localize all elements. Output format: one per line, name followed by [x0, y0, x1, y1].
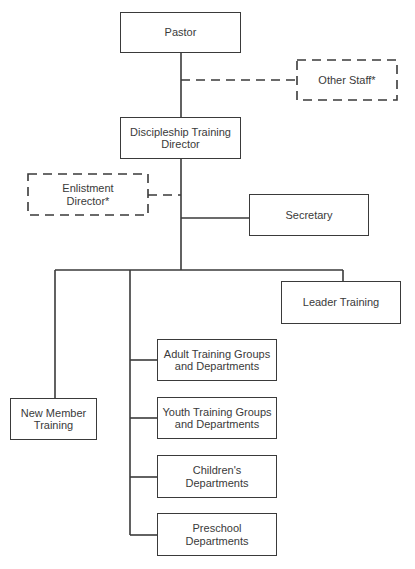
preschool-label-line1: Preschool — [193, 522, 242, 535]
pastor-box: Pastor — [120, 12, 241, 53]
pastor-label: Pastor — [165, 26, 197, 39]
dtd-label-line1: Discipleship Training — [130, 126, 231, 139]
leader-training-box: Leader Training — [281, 281, 401, 324]
preschool-departments-box: Preschool Departments — [157, 513, 277, 556]
preschool-label-line2: Departments — [186, 535, 249, 548]
dtd-label-line2: Director — [161, 138, 200, 151]
children-label-line1: Children's — [193, 464, 242, 477]
leader-training-label: Leader Training — [303, 296, 379, 309]
youth-label-line2: and Departments — [175, 418, 259, 431]
children-label-line2: Departments — [186, 477, 249, 490]
secretary-label: Secretary — [285, 209, 332, 222]
new-member-label-line2: Training — [34, 419, 73, 432]
new-member-training-box: New Member Training — [10, 398, 97, 440]
other-staff-label: Other Staff* — [318, 74, 375, 87]
discipleship-training-director-box: Discipleship Training Director — [120, 117, 241, 159]
enlistment-label-line1: Enlistment — [62, 182, 113, 195]
adult-label-line2: and Departments — [175, 360, 259, 373]
childrens-departments-box: Children's Departments — [157, 455, 277, 498]
youth-label-line1: Youth Training Groups — [162, 406, 271, 419]
secretary-box: Secretary — [249, 194, 369, 236]
new-member-label-line1: New Member — [21, 407, 86, 420]
other-staff-box: Other Staff* — [297, 60, 397, 100]
adult-training-box: Adult Training Groups and Departments — [157, 339, 277, 381]
adult-label-line1: Adult Training Groups — [164, 348, 270, 361]
enlistment-director-box: Enlistment Director* — [28, 174, 148, 215]
youth-training-box: Youth Training Groups and Departments — [157, 397, 277, 439]
enlistment-label-line2: Director* — [67, 195, 110, 208]
